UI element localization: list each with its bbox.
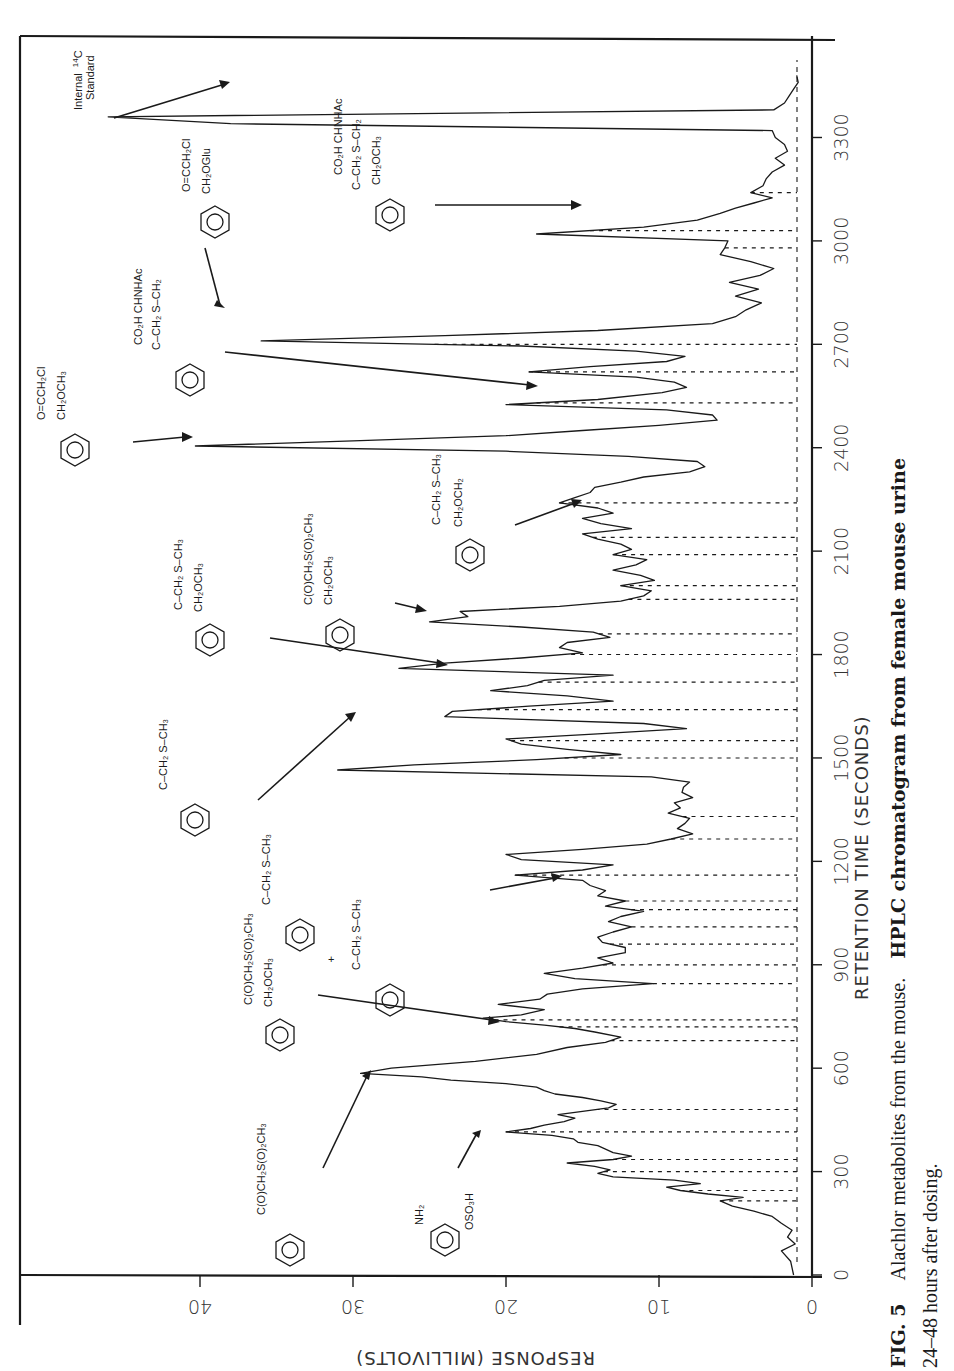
x-tick-label: 1200	[830, 837, 852, 885]
arrowhead-icon	[362, 1070, 371, 1080]
arrow-icon	[318, 995, 492, 1020]
chromatogram-figure: 0300600900120015001800210024002700300033…	[0, 0, 954, 1371]
y-tick-label: 20	[494, 1296, 518, 1318]
arrow-icon	[205, 248, 220, 305]
structure-s4b: C–CH₂ S–CH₃	[350, 899, 404, 1016]
x-tick-label: 900	[830, 947, 852, 983]
svg-text:CO₂H CHNHAc: CO₂H CHNHAc	[132, 268, 144, 345]
arrow-icon	[490, 878, 555, 890]
arrow-icon	[258, 717, 350, 800]
caption-text: Alachlor metabolites from the mouse.	[887, 978, 909, 1281]
svg-text:C–CH₂ S–CH₃: C–CH₂ S–CH₃	[172, 539, 184, 610]
structure-s8: CH₂OCH₂ C–CH₂ S–CH₃	[430, 454, 484, 571]
svg-text:C(O)CH₂S(O)₂CH₃: C(O)CH₂S(O)₂CH₃	[255, 1123, 267, 1215]
arrowhead-icon	[415, 604, 427, 613]
structure-s4: C–CH₂ S–CH₃ +	[260, 834, 334, 965]
structure-s7: CH₂OCH₃ C(O)CH₂S(O)₂CH₃	[302, 513, 354, 651]
svg-text:C(O)CH₂S(O)₂CH₃: C(O)CH₂S(O)₂CH₃	[242, 913, 254, 1005]
caption-line2: 24–48 hours after dosing.	[919, 1164, 942, 1368]
x-tick-label: 300	[830, 1153, 852, 1189]
arrowhead-icon	[551, 873, 562, 882]
svg-text:CH₂OCH₃: CH₂OCH₃	[55, 371, 67, 420]
svg-text:+: +	[328, 953, 334, 965]
structure-s11: CH₂OGlu O=CCH₂Cl	[180, 139, 229, 238]
x-tick-label: 3300	[830, 113, 852, 161]
x-tick-label: 1500	[830, 734, 852, 782]
figure-caption: FIG. 5 Alachlor metabolites from the mou…	[887, 458, 942, 1368]
structure-s6: CH₂OCH₃ C–CH₂ S–CH₃	[172, 539, 224, 656]
svg-text:CH₂OGlu: CH₂OGlu	[200, 148, 212, 194]
x-tick-label: 600	[830, 1050, 852, 1086]
svg-text:C–CH₂ S–CH₃: C–CH₂ S–CH₃	[157, 719, 169, 790]
y-axis-label: RESPONSE (MILLIVOLTS)	[355, 1348, 595, 1369]
svg-text:NH₂: NH₂	[413, 1205, 425, 1225]
svg-text:O=CCH₂Cl: O=CCH₂Cl	[35, 367, 47, 420]
arrow-icon	[270, 638, 440, 663]
svg-text:Internal 14C: Internal 14C	[71, 50, 84, 110]
structure-s1: C(O)CH₂S(O)₂CH₃	[255, 1123, 304, 1266]
x-tick-label: 0	[830, 1269, 852, 1281]
arrow-icon	[133, 437, 185, 442]
caption-bold: HPLC chromatogram from female mouse urin…	[887, 458, 909, 959]
arrow-icon	[323, 1076, 367, 1168]
caption-fig-label: FIG. 5	[887, 1304, 909, 1368]
y-axis-line	[20, 1275, 822, 1277]
x-tick-label: 2400	[830, 424, 852, 472]
arrow-icon	[458, 1135, 476, 1168]
arrowhead-icon	[219, 80, 230, 89]
arrowhead-icon	[571, 200, 582, 210]
structure-s9: CH₂OCH₃ O=CCH₂Cl	[35, 367, 89, 466]
svg-text:C–CH₂ S–CH₃: C–CH₂ S–CH₃	[260, 834, 272, 905]
y-tick-label: 30	[341, 1296, 365, 1318]
y-tick-label: 10	[647, 1296, 671, 1318]
svg-text:C–CH₂ S–CH₃: C–CH₂ S–CH₃	[430, 454, 442, 525]
arrow-icon	[114, 84, 225, 118]
svg-text:C–CH₂ S–CH₃: C–CH₂ S–CH₃	[350, 899, 362, 970]
chromatogram-trace	[108, 75, 798, 1275]
svg-text:C(O)CH₂S(O)₂CH₃: C(O)CH₂S(O)₂CH₃	[302, 513, 314, 605]
x-tick-label: 1800	[830, 630, 852, 678]
svg-text:Standard: Standard	[84, 55, 96, 100]
x-axis-ticks: 0300600900120015001800210024002700300033…	[812, 113, 852, 1281]
svg-text:C–CH₂ S–CH₂: C–CH₂ S–CH₂	[150, 279, 162, 350]
arrowhead-icon	[182, 432, 193, 442]
svg-text:CH₂OCH₃: CH₂OCH₃	[322, 556, 334, 605]
structure-s2: NH₂ OSO₃H	[413, 1193, 475, 1256]
structure-s12: CH₂OCH₃ C–CH₂ S–CH₂ CO₂H CHNHAc	[332, 98, 404, 231]
x-tick-label: 2100	[830, 527, 852, 575]
arrow-icon	[515, 503, 575, 525]
y-axis-ticks: 010203040	[188, 1275, 818, 1318]
x-tick-label: 2700	[830, 320, 852, 368]
arrow-icon	[225, 352, 530, 385]
x-axis-label: RETENTION TIME (SECONDS)	[851, 715, 872, 1000]
internal-standard-annotation: Internal 14C Standard	[71, 50, 230, 118]
svg-text:CH₂OCH₂: CH₂OCH₂	[452, 478, 464, 527]
svg-text:O=CCH₂Cl: O=CCH₂Cl	[180, 139, 192, 192]
svg-text:CH₂OCH₃: CH₂OCH₃	[262, 958, 274, 1007]
plot-frame-top	[20, 36, 835, 40]
svg-text:CO₂H CHNHAc: CO₂H CHNHAc	[332, 98, 344, 175]
structure-annotations: CH₂OCH₃ C–CH₂ S–CH₂ CO₂H CHNHAc CH₂OGlu …	[35, 98, 582, 1266]
y-tick-label: 40	[188, 1296, 212, 1318]
svg-text:FIG. 5 Alachlor metaboli: FIG. 5 Alachlor metabolites from the mou…	[887, 458, 909, 1368]
svg-text:C–CH₂ S–CH₂: C–CH₂ S–CH₂	[350, 119, 362, 190]
arrowhead-icon	[472, 1130, 481, 1138]
y-tick-label: 0	[806, 1296, 818, 1318]
dropline-group	[435, 193, 797, 1201]
x-tick-label: 3000	[830, 217, 852, 265]
svg-text:OSO₃H: OSO₃H	[463, 1193, 475, 1230]
arrowhead-icon	[526, 381, 538, 390]
svg-text:CH₂OCH₃: CH₂OCH₃	[192, 563, 204, 612]
svg-text:CH₂OCH₃: CH₂OCH₃	[370, 136, 382, 185]
structure-s10: C–CH₂ S–CH₂ CO₂H CHNHAc	[132, 268, 204, 396]
structure-s5: C–CH₂ S–CH₃	[157, 719, 209, 836]
